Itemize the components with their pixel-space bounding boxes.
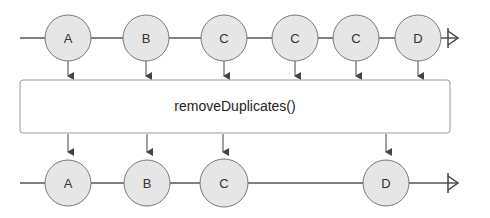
input-marble: C — [272, 15, 318, 76]
marble-label: A — [64, 31, 73, 46]
output-marble: B — [124, 134, 170, 206]
input-stream: A B C C C D — [20, 15, 458, 76]
input-marble: B — [123, 15, 169, 76]
output-marble: D — [363, 134, 409, 206]
marble-label: D — [413, 31, 422, 46]
marble-label: D — [381, 176, 390, 191]
input-marble: D — [395, 15, 441, 76]
output-marble: C — [200, 134, 248, 207]
input-marble: C — [333, 15, 379, 76]
operator-box: removeDuplicates() — [20, 80, 450, 133]
marble-label: C — [219, 31, 228, 46]
marble-label: C — [290, 31, 299, 46]
output-stream: A B C D — [20, 134, 458, 207]
input-marble: C — [201, 15, 247, 76]
marble-label: C — [219, 176, 228, 191]
marble-label: A — [64, 176, 73, 191]
operator-label: removeDuplicates() — [174, 98, 295, 114]
marble-label: C — [351, 31, 360, 46]
marble-diagram: A B C C C D removeDuplicat — [0, 0, 490, 218]
marble-label: B — [142, 31, 151, 46]
marble-label: B — [143, 176, 152, 191]
input-marble: A — [45, 15, 91, 76]
output-marble: A — [45, 134, 91, 206]
